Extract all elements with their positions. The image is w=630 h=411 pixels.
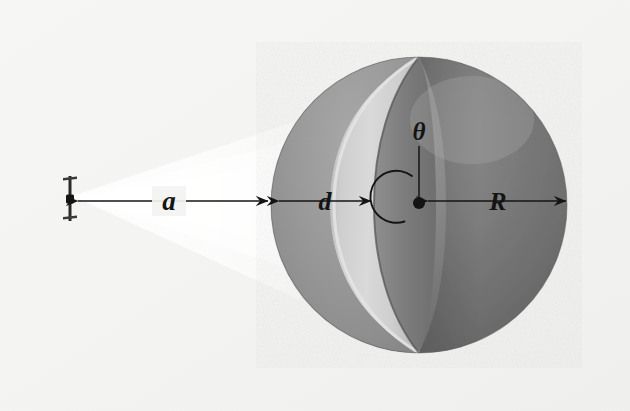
source-dot	[66, 195, 74, 204]
theta-label: θ	[413, 118, 426, 145]
dimension-d-label: d	[319, 187, 333, 216]
sphere-center-dot	[413, 197, 425, 209]
dimension-a-label: a	[162, 186, 176, 216]
figure-canvas: a d R θ	[0, 0, 630, 411]
dimension-R-label: R	[488, 187, 506, 216]
physics-figure: a d R θ	[0, 0, 630, 411]
